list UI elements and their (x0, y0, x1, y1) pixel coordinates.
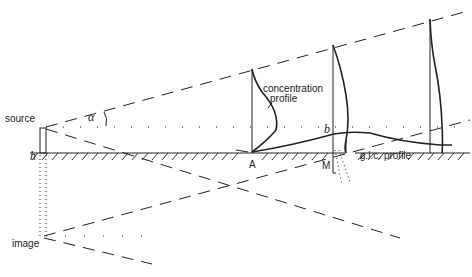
alpha-arc (104, 112, 107, 126)
arrow-to-a (236, 150, 248, 152)
image-label: image (12, 239, 39, 249)
glc-profile (252, 132, 452, 152)
concentration-profile-2 (333, 45, 348, 153)
lower-plume-boundary (46, 129, 400, 238)
source-label: source (5, 114, 35, 124)
concentration-profile-label-line2: profile (270, 94, 297, 104)
m-label: M (322, 161, 330, 171)
plume-diagram: source α h concentration profile b g.l.c… (0, 0, 472, 277)
height-label: h (30, 151, 36, 161)
b-label: b (324, 124, 330, 134)
image-upper-boundary (44, 120, 470, 236)
diagram-graphics (0, 0, 472, 277)
a-label: A (249, 160, 256, 170)
concentration-profile-1 (252, 69, 277, 152)
alpha-label: α (88, 112, 94, 122)
stack (40, 128, 46, 153)
glc-profile-label: g.l.c. profile (360, 151, 411, 161)
upper-plume-boundary (46, 11, 468, 127)
concentration-profile-3 (430, 19, 443, 153)
image-lower-boundary (44, 238, 152, 264)
